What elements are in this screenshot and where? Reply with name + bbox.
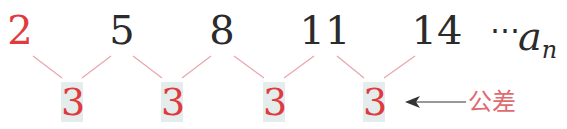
connector-line	[33, 56, 62, 78]
sequence-term: 11	[300, 8, 351, 52]
common-difference-label: 公差	[468, 88, 516, 116]
ellipsis: ⋯	[490, 12, 518, 47]
sequence-term-first: 2	[7, 8, 32, 52]
connector-line	[284, 56, 314, 78]
common-difference-box: 3	[161, 82, 183, 122]
connector-line	[133, 56, 162, 78]
general-term-subscript: n	[542, 36, 557, 64]
general-term-variable: a	[518, 13, 542, 59]
common-difference-box: 3	[61, 82, 83, 122]
sequence-term: 14	[412, 8, 463, 52]
connector-line	[182, 56, 211, 78]
left-arrow-icon	[405, 96, 466, 108]
connector-line	[82, 56, 111, 78]
sequence-term: 5	[109, 8, 134, 52]
general-term: ⋯an	[490, 8, 557, 72]
common-difference-box: 3	[363, 82, 385, 122]
connector-line	[234, 56, 264, 78]
common-difference-box: 3	[263, 82, 285, 122]
connector-line	[337, 56, 364, 78]
sequence-term: 8	[209, 8, 234, 52]
connector-line	[384, 56, 415, 78]
